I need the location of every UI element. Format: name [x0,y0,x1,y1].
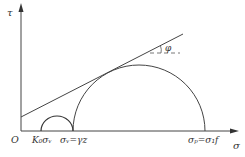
failure-envelope-line [21,34,183,117]
large-mohr-circle [73,65,205,131]
sigma-p-sigma-1f-label: σₚ=σ₁f [188,135,220,145]
tau-axis-arrow-icon [19,3,24,12]
sigma-axis-arrow-icon [230,129,239,134]
tau-axis-label: τ [7,7,13,18]
sigma-axis-label: σ [233,140,241,151]
origin-label: O [11,134,19,145]
sigma-v-gamma-z-label: σᵥ=γz [60,135,87,145]
small-mohr-circle [41,116,73,131]
k0-sigma-v-label: K₀σᵥ [31,135,52,145]
phi-angle-arc [161,46,162,53]
phi-angle-label: φ [165,43,172,53]
mohr-diagram: τ σ O K₀σᵥ σᵥ=γz σₚ=σ₁f φ [0,0,245,157]
